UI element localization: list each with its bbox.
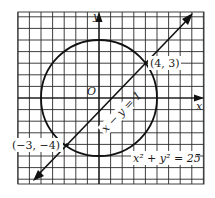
circle-equation-label: x² + y² = 25 [133, 152, 201, 165]
intersection-point-neg3-neg4 [65, 143, 69, 147]
line-equation-label-group: x − y = 1 [97, 89, 144, 137]
intersection-point-4-3 [144, 61, 148, 65]
origin-label: O [87, 85, 96, 98]
graph-canvas: (4, 3) (−3, −4) O y x x − y = 1 x² + y² … [0, 0, 215, 198]
intersection-label-4-3: (4, 3) [150, 57, 180, 70]
y-axis-label: y [92, 10, 100, 23]
line-equation-label: x − y = 1 [99, 89, 144, 135]
x-axis-label: x [196, 100, 203, 113]
intersection-label-neg3-neg4: (−3, −4) [12, 139, 60, 152]
